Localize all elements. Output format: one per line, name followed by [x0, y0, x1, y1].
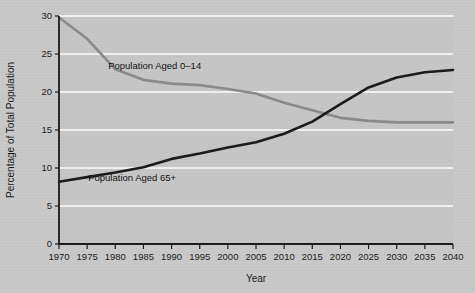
x-tick-label: 1985 — [133, 251, 154, 262]
y-tick-label: 0 — [47, 238, 52, 249]
x-axis-title: Year — [246, 273, 267, 284]
population-percentage-line-chart: 051015202530 197019751980198519901995200… — [0, 0, 475, 293]
x-tick-label: 2020 — [330, 251, 351, 262]
x-tick-label: 1970 — [48, 251, 69, 262]
x-tick-label: 2025 — [358, 251, 379, 262]
x-tick-label: 1990 — [161, 251, 182, 262]
x-tick-label: 2015 — [302, 251, 323, 262]
x-tick-label: 2005 — [245, 251, 266, 262]
y-tick-label: 20 — [41, 86, 52, 97]
x-tick-label: 1995 — [189, 251, 210, 262]
y-tick-label: 30 — [41, 10, 52, 21]
x-tick-label: 2040 — [442, 251, 463, 262]
y-axis-title: Percentage of Total Population — [5, 62, 16, 198]
y-tick-label: 5 — [47, 200, 52, 211]
series-label: Population Aged 65+ — [88, 172, 176, 183]
x-tick-label: 1975 — [77, 251, 98, 262]
x-tick-label: 2000 — [217, 251, 238, 262]
x-tick-label: 2010 — [274, 251, 295, 262]
x-tick-label: 1980 — [105, 251, 126, 262]
y-tick-label: 10 — [41, 162, 52, 173]
series-label: Population Aged 0–14 — [108, 60, 201, 71]
y-tick-label: 25 — [41, 48, 52, 59]
x-tick-label: 2030 — [386, 251, 407, 262]
y-tick-label: 15 — [41, 124, 52, 135]
chart-figure: 051015202530 197019751980198519901995200… — [0, 0, 475, 293]
x-tick-label: 2035 — [414, 251, 435, 262]
